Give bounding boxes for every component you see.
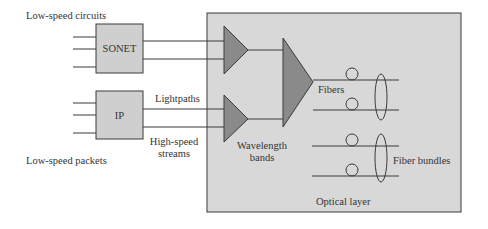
low-speed-packets-label: Low-speed packets: [26, 155, 107, 167]
fiber-bundles-label: Fiber bundles: [393, 155, 450, 167]
ip-input-lines: [73, 103, 96, 133]
lightpaths-label: Lightpaths: [155, 93, 200, 105]
high-speed-streams-label-line2: streams: [144, 148, 204, 160]
sonet-input-lines: [73, 37, 96, 67]
wavelength-bands-label-line1: Wavelength: [232, 140, 292, 152]
low-speed-circuits-label: Low-speed circuits: [26, 10, 106, 22]
optical-layer-diagram: [0, 0, 488, 229]
optical-layer-box: [207, 13, 461, 212]
sonet-label: SONET: [96, 43, 143, 55]
wavelength-bands-label-line2: bands: [232, 152, 292, 164]
ip-label: IP: [96, 110, 143, 122]
fibers-label: Fibers: [318, 84, 344, 96]
optical-layer-label: Optical layer: [316, 196, 371, 208]
high-speed-streams-label-line1: High-speed: [144, 136, 204, 148]
